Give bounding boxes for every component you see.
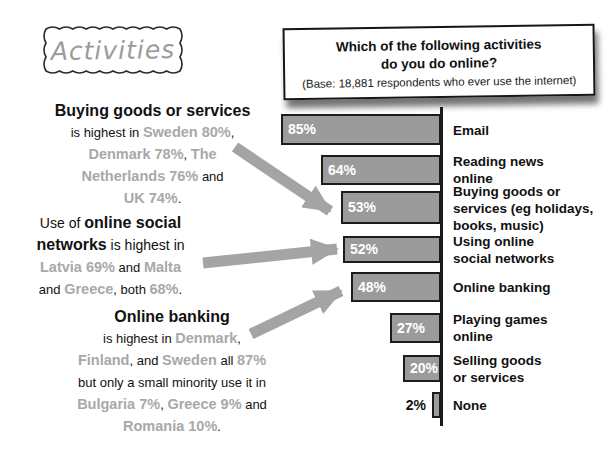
bar-category-line: social networks [453, 250, 554, 267]
bar-category-line: Email [453, 121, 489, 138]
note-text-segment: Buying goods or services [55, 102, 251, 119]
activities-sticker: Activities [41, 24, 185, 76]
note-line: but only a small minority use it in [28, 371, 316, 393]
question-base-note: (Base: 18,881 respondents who ever use t… [285, 74, 593, 90]
note-line: Denmark 78%, The [15, 143, 290, 165]
bar-category-line: online [453, 328, 548, 345]
bar-category-line: books, music) [453, 216, 593, 233]
bar-category-line: Selling goods [453, 352, 542, 369]
bar-3: 53% [341, 191, 441, 224]
note-text-segment: Malta [144, 259, 181, 275]
note-line: is highest in Denmark, [28, 327, 316, 349]
note-line: and Greece, both 68%. [3, 278, 218, 300]
activities-label: Activities [41, 23, 186, 78]
note-text-segment: , [237, 331, 241, 346]
note-line: Online banking [28, 306, 316, 327]
note-text-segment: Netherlands 76% [81, 168, 198, 184]
bar-category-line: Reading news [453, 153, 544, 170]
note-text-segment: Sweden 80% [143, 124, 231, 140]
bar-value-label: 52% [345, 238, 439, 261]
bar-8 [432, 392, 441, 418]
bar-category-line: or services [453, 369, 542, 386]
note-text-segment: and [39, 282, 64, 297]
note-text-segment: UK 74% [124, 190, 178, 206]
note-text-segment: , and [129, 353, 162, 368]
bar-7: 20% [403, 355, 441, 382]
note-text-segment: Denmark [175, 330, 237, 346]
bar-category-line: Buying goods or [453, 182, 593, 199]
note-text-segment: online social [84, 214, 181, 231]
note-text-segment: , [231, 125, 235, 140]
bar-category-label: None [453, 397, 487, 414]
note-line: Bulgaria 7%, Greece 9% and [28, 393, 316, 415]
note-text-segment: , [184, 147, 191, 162]
note-text-segment: . [217, 419, 221, 434]
bar-value-label: 85% [283, 116, 439, 143]
bar-6: 27% [390, 313, 441, 343]
bar-category-line: Online banking [453, 279, 551, 296]
note-text-segment: but only a small minority use it in [78, 375, 266, 390]
bar-value-label: 48% [353, 274, 439, 300]
bar-category-line: services (eg holidays, [453, 199, 593, 216]
bar-category-label: Email [453, 121, 489, 138]
note-line: UK 74%. [15, 187, 290, 209]
bar-category-line: None [453, 397, 487, 414]
infographic-page: Activities Which of the following activi… [0, 0, 614, 451]
bar-category-label: Playing gamesonline [453, 311, 548, 345]
note-text-segment: all [217, 353, 237, 368]
note-line: Romania 10%. [28, 415, 316, 437]
note-text-segment: Finland [78, 352, 130, 368]
note-text-segment: Greece 9% [167, 396, 241, 412]
bar-value-label: 64% [323, 157, 439, 183]
note-text-segment: The [191, 146, 217, 162]
note-text-segment: Use of [40, 215, 84, 231]
note-text-segment: Latvia 69% [40, 259, 115, 275]
bar-category-label: Using onlinesocial networks [453, 233, 554, 267]
arrow-to-social-bar [203, 249, 337, 263]
bar-category-label: Buying goods orservices (eg holidays,boo… [453, 182, 593, 233]
bar-4: 52% [343, 236, 441, 263]
question-title-line2: do you do online? [285, 53, 593, 75]
note-text-segment: 68% [149, 281, 178, 297]
bar-category-line: Playing games [453, 311, 548, 328]
note-text-segment: is highest in [71, 125, 143, 140]
question-box: Which of the following activities do you… [283, 24, 596, 100]
bar-category-label: Selling goodsor services [453, 352, 542, 386]
note-text-segment: 87% [237, 352, 266, 368]
note-text-segment: Romania 10% [123, 418, 217, 434]
bar-1: 85% [281, 114, 441, 145]
bar-value-label: 2% [372, 392, 426, 418]
note-online-banking: Online bankingis highest in Denmark,Finl… [28, 306, 316, 437]
note-line: Latvia 69% and Malta [3, 256, 218, 278]
note-text-segment: is highest in [103, 331, 175, 346]
note-line: Use of online social [3, 212, 218, 234]
note-social-networks: Use of online socialnetworks is highest … [3, 212, 218, 300]
note-text-segment: Bulgaria 7% [77, 396, 160, 412]
note-text-segment: Online banking [114, 308, 230, 325]
note-text-segment: is highest in [107, 237, 185, 253]
bar-value-label: 53% [343, 193, 439, 222]
note-line: is highest in Sweden 80%, [15, 121, 290, 143]
note-text-segment: networks [36, 236, 106, 253]
bar-category-line: Using online [453, 233, 554, 250]
note-text-segment: and [242, 397, 267, 412]
bar-5: 48% [351, 272, 441, 302]
note-text-segment: , both [113, 282, 149, 297]
note-text-segment: and [115, 260, 144, 275]
note-text-segment: . [179, 282, 183, 297]
note-line: networks is highest in [3, 234, 218, 256]
note-line: Netherlands 76% and [15, 165, 290, 187]
note-text-segment: Sweden [162, 352, 217, 368]
bar-2: 64% [321, 155, 441, 185]
note-line: Finland, and Sweden all 87% [28, 349, 316, 371]
note-line: Buying goods or services [15, 100, 290, 121]
bar-value-label: 27% [392, 315, 439, 341]
bar-category-label: Online banking [453, 279, 551, 296]
note-text-segment: Greece [64, 281, 113, 297]
bar-value-label: 20% [405, 357, 439, 380]
note-text-segment: . [178, 191, 182, 206]
note-text-segment: and [198, 169, 223, 184]
note-text-segment: Denmark 78% [88, 146, 183, 162]
note-buying-goods: Buying goods or servicesis highest in Sw… [15, 100, 290, 209]
